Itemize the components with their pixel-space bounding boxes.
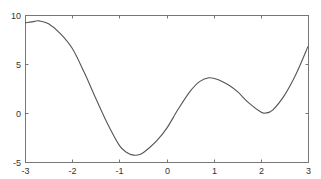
x-tick-label: 2 (259, 166, 264, 176)
data-line (25, 21, 308, 156)
y-tick-label: 10 (11, 11, 21, 21)
x-tick-label: 1 (212, 166, 217, 176)
y-tick-label: 0 (16, 109, 21, 119)
plot-frame (26, 16, 309, 163)
y-tick-label: 5 (16, 60, 21, 70)
y-tick-label: -5 (13, 158, 21, 168)
y-axis-ticks: -50510 (11, 11, 309, 168)
x-tick-label: 3 (306, 166, 311, 176)
x-axis-ticks: -3-2-10123 (21, 16, 311, 177)
x-tick-label: -2 (68, 166, 76, 176)
line-chart: -3-2-10123 -50510 (0, 0, 321, 179)
x-tick-label: -3 (21, 166, 29, 176)
x-tick-label: 0 (165, 166, 170, 176)
x-tick-label: -1 (115, 166, 123, 176)
